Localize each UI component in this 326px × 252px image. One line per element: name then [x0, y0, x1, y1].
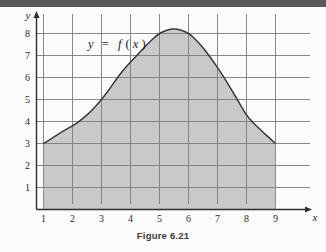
y-tick-label-4: 4 [25, 116, 30, 127]
function-label-open-paren: ( [125, 37, 129, 51]
plot-canvas: 8 7 6 5 4 3 2 1 1 2 3 4 5 6 7 8 9 y x y [0, 0, 326, 252]
x-tick-label-3: 3 [99, 213, 104, 224]
x-axis-tick-labels: 1 2 3 4 5 6 7 8 9 [41, 213, 278, 224]
function-label-equals: = [102, 37, 109, 51]
x-tick-label-6: 6 [186, 213, 191, 224]
y-tick-label-6: 6 [25, 72, 30, 83]
y-tick-label-5: 5 [25, 94, 30, 105]
function-label: y = f ( x ) [86, 37, 146, 51]
x-tick-label-4: 4 [128, 213, 133, 224]
svg-text:y = f: y = f ( x ) [86, 37, 146, 51]
function-label-close-paren: ) [141, 37, 145, 51]
y-tick-label-1: 1 [25, 182, 30, 193]
x-tick-label-5: 5 [157, 213, 162, 224]
function-label-f: f [118, 37, 123, 51]
y-tick-label-2: 2 [25, 160, 30, 171]
function-label-x: x [132, 37, 139, 51]
x-tick-label-9: 9 [273, 213, 278, 224]
y-axis-tick-labels: 8 7 6 5 4 3 2 1 [25, 28, 30, 193]
y-tick-label-3: 3 [25, 138, 30, 149]
x-tick-label-1: 1 [41, 213, 46, 224]
x-tick-label-2: 2 [70, 213, 75, 224]
x-axis-label: x [312, 211, 318, 223]
x-tick-label-8: 8 [244, 213, 249, 224]
figure-caption: Figure 6.21 [0, 230, 326, 241]
y-tick-label-8: 8 [25, 28, 30, 39]
function-label-y: y [86, 37, 94, 51]
y-tick-label-7: 7 [25, 50, 30, 61]
x-tick-label-7: 7 [215, 213, 220, 224]
figure-container: 8 7 6 5 4 3 2 1 1 2 3 4 5 6 7 8 9 y x y [0, 0, 326, 252]
y-axis-label: y [25, 9, 31, 21]
